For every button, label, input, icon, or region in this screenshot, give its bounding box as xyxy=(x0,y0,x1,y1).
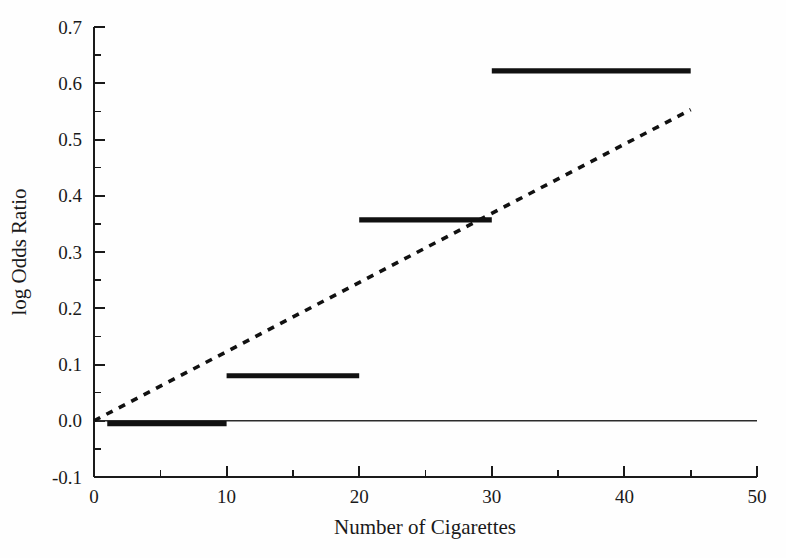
y-axis-title: log Odds Ratio xyxy=(7,188,31,315)
y-tick-label: 0.6 xyxy=(58,73,82,94)
chart-background xyxy=(0,0,786,558)
chart-container: -0.10.00.10.20.30.40.50.60.7 01020304050… xyxy=(0,0,786,558)
x-tick-label: 0 xyxy=(89,486,99,507)
y-tick-label: 0.0 xyxy=(58,410,82,431)
log-odds-ratio-chart: -0.10.00.10.20.30.40.50.60.7 01020304050… xyxy=(0,0,786,558)
y-tick-label: 0.5 xyxy=(58,129,82,150)
x-tick-label: 10 xyxy=(217,486,236,507)
x-tick-label: 50 xyxy=(748,486,767,507)
y-tick-label: 0.7 xyxy=(58,17,82,38)
x-axis-title: Number of Cigarettes xyxy=(334,515,516,539)
y-tick-label: 0.3 xyxy=(58,242,82,263)
x-tick-label: 20 xyxy=(350,486,369,507)
y-tick-label: 0.1 xyxy=(58,354,82,375)
x-tick-label: 40 xyxy=(615,486,634,507)
x-tick-label: 30 xyxy=(482,486,501,507)
y-tick-label: -0.1 xyxy=(52,467,82,488)
y-tick-label: 0.4 xyxy=(58,185,82,206)
y-tick-label: 0.2 xyxy=(58,298,82,319)
